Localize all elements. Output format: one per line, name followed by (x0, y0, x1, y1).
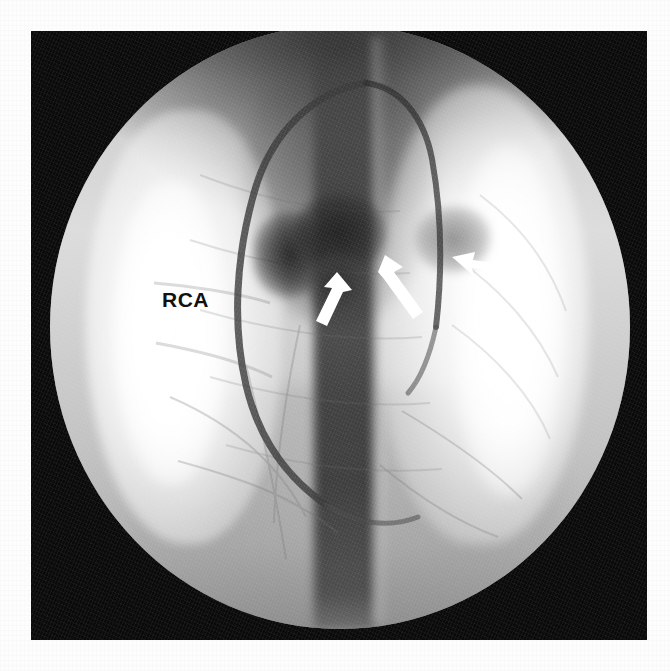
rca-label: RCA (162, 289, 209, 310)
arrow-left-icon (452, 252, 493, 276)
arrow-up-left-icon (316, 272, 352, 326)
arrow-up-left-icon (378, 255, 423, 319)
scanned-page: RCA (0, 0, 670, 671)
radiograph-frame: RCA (31, 31, 647, 640)
annotation-overlay (31, 31, 647, 640)
